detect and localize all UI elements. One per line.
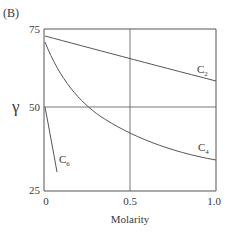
chart: (B) 75 50 25 γ 0 0.5 1.0 Molarity C2 C4 … xyxy=(0,0,231,236)
x-tick-labels: 0 0.5 1.0 xyxy=(43,195,221,207)
y-axis-label: γ xyxy=(11,97,20,116)
svg-text:1.0: 1.0 xyxy=(207,195,221,207)
svg-text:0: 0 xyxy=(43,195,49,207)
label-c6: C6 xyxy=(59,153,70,168)
svg-text:25: 25 xyxy=(29,184,41,196)
svg-text:75: 75 xyxy=(29,23,41,35)
curve-c6 xyxy=(45,107,57,172)
svg-text:0.5: 0.5 xyxy=(123,195,137,207)
svg-text:50: 50 xyxy=(29,101,41,113)
curve-c4 xyxy=(45,42,216,160)
curves xyxy=(45,36,216,172)
label-c4: C4 xyxy=(198,141,209,156)
panel-label: (B) xyxy=(3,6,19,20)
y-tick-labels: 75 50 25 xyxy=(29,23,41,196)
curve-labels: C2 C4 C6 xyxy=(59,63,209,168)
x-axis-label: Molarity xyxy=(111,213,150,225)
curve-c2 xyxy=(45,36,216,81)
label-c2: C2 xyxy=(197,63,208,78)
